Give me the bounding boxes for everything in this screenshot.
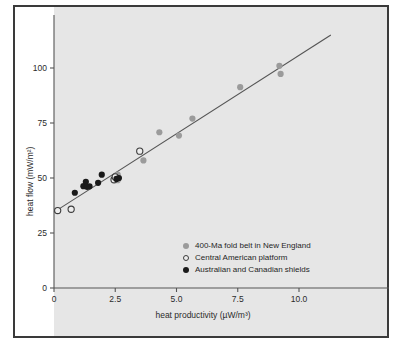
data-point-s0-9 bbox=[278, 71, 284, 77]
data-point-s1-1 bbox=[68, 206, 74, 212]
ytick-label-100: 100 bbox=[15, 63, 47, 73]
legend: 400-Ma fold belt in New England Central … bbox=[180, 240, 311, 276]
legend-item-shields: Australian and Canadian shields bbox=[180, 264, 311, 276]
regression-line-layer bbox=[54, 35, 331, 212]
data-point-s2-6 bbox=[99, 172, 105, 178]
filled-gray-marker-icon bbox=[180, 243, 192, 249]
filled-black-marker-icon bbox=[180, 267, 192, 273]
legend-label: Central American platform bbox=[195, 252, 287, 264]
xtick-label-0: 0 bbox=[34, 294, 74, 304]
data-point-s1-4 bbox=[137, 148, 143, 154]
data-point-s2-4 bbox=[86, 183, 92, 189]
open-marker-icon bbox=[180, 255, 192, 261]
figure-frame: 0 25 50 75 100 0 2.5 5.0 7.5 10.0 heat f… bbox=[13, 5, 389, 338]
legend-label: Australian and Canadian shields bbox=[195, 264, 310, 276]
xtick-label-10.0: 10.0 bbox=[279, 294, 319, 304]
data-point-s1-0 bbox=[55, 207, 61, 213]
data-point-s0-8 bbox=[276, 63, 282, 69]
legend-item-new-england: 400-Ma fold belt in New England bbox=[180, 240, 311, 252]
data-point-s0-5 bbox=[176, 132, 182, 138]
scatter-plot bbox=[15, 7, 391, 340]
data-point-s0-6 bbox=[189, 116, 195, 122]
ytick-label-25: 25 bbox=[15, 228, 47, 238]
xtick-label-5.0: 5.0 bbox=[157, 294, 197, 304]
data-point-s0-7 bbox=[237, 84, 243, 90]
x-axis-title: heat productivity (µW/m³) bbox=[15, 310, 391, 320]
data-point-s2-5 bbox=[95, 180, 101, 186]
legend-item-central-american-platform: Central American platform bbox=[180, 252, 311, 264]
data-point-s2-0 bbox=[72, 190, 78, 196]
data-point-s0-4 bbox=[156, 129, 162, 135]
regression-line bbox=[54, 35, 331, 212]
xtick-label-7.5: 7.5 bbox=[218, 294, 258, 304]
ytick-label-0: 0 bbox=[15, 283, 47, 293]
data-point-s2-8 bbox=[116, 175, 122, 181]
xtick-label-2.5: 2.5 bbox=[95, 294, 135, 304]
ytick-label-75: 75 bbox=[15, 118, 47, 128]
data-point-s0-3 bbox=[140, 157, 146, 163]
y-axis-title: heat flow (mW/m²) bbox=[25, 147, 35, 216]
legend-label: 400-Ma fold belt in New England bbox=[195, 240, 311, 252]
